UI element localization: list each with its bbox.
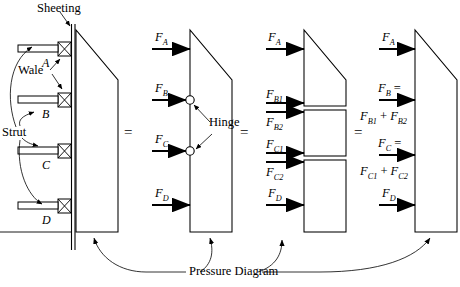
force-label-FC-4-eq: = [391, 136, 401, 150]
force-label-FB-4-line1: FB = [378, 82, 401, 98]
pressure-diagram-3-bot [304, 160, 346, 232]
force-label-FD-4: FD [382, 187, 396, 203]
pressure-diagram-3-top [304, 30, 346, 106]
force-label-FD-2: FD [155, 187, 169, 203]
force-label-FA-3-base: F [268, 30, 276, 44]
force-label-FC-2-base: F [155, 132, 163, 146]
force-label-FB-4-base: F [378, 81, 386, 95]
strut-level-label-A: A [42, 57, 49, 69]
force-label-FC-4-plus: + [377, 164, 390, 178]
equals-sign-3: = [354, 125, 362, 140]
force-label-FD-4-base: F [382, 186, 390, 200]
force-label-FC2-3: FC2 [266, 166, 283, 182]
pressure-diagram-2 [190, 30, 232, 232]
force-label-FB-2-sub: B [163, 89, 168, 98]
force-label-FD-2-base: F [155, 186, 163, 200]
force-label-FB1-3-sub: B1 [274, 95, 283, 104]
force-label-FA-3: FA [268, 31, 281, 47]
force-label-FB-4-eq: = [391, 81, 401, 95]
force-label-FD-3-base: F [268, 186, 276, 200]
force-label-FB-2-base: F [155, 81, 163, 95]
pressure-diagram-4 [415, 30, 457, 232]
force-label-FC1-4-base: F [360, 164, 368, 178]
force-label-FC1-3-base: F [266, 137, 274, 151]
force-label-FB-4-line2: FB1 + FB2 [360, 110, 407, 126]
strut-label: Strut [2, 126, 26, 139]
force-label-FC2-3-base: F [266, 165, 274, 179]
force-label-FD-3-sub: D [276, 194, 282, 203]
pressure-diagram-3-mid [304, 110, 346, 156]
force-label-FC2-4-sub: C2 [398, 172, 408, 181]
force-label-FB1-4-sub: B1 [368, 117, 377, 126]
hinge-marker-upper [186, 96, 194, 104]
force-label-FB1-4-base: F [360, 109, 368, 123]
force-label-FD-2-sub: D [163, 194, 169, 203]
wale-boxes [58, 42, 71, 213]
force-label-FB2-3: FB2 [266, 116, 283, 132]
force-label-FA-2: FA [155, 31, 168, 47]
force-label-FB1-3-base: F [266, 87, 274, 101]
force-label-FC-4-base: F [378, 136, 386, 150]
force-label-FA-2-sub: A [163, 38, 168, 47]
force-label-FB-4-plus: + [377, 109, 390, 123]
wale-leaders [50, 59, 62, 89]
force-label-FB2-3-sub: B2 [274, 123, 283, 132]
figure-root: Sheeting Wale Strut A B C D = = = FA FB … [0, 0, 460, 287]
force-label-FA-2-base: F [155, 30, 163, 44]
force-label-FC1-4-sub: C1 [368, 172, 378, 181]
equals-sign-2: = [240, 125, 248, 140]
force-label-FC-4-line2: FC1 + FC2 [360, 165, 408, 181]
force-label-FB2-4-sub: B2 [398, 117, 407, 126]
force-label-FA-4: FA [382, 31, 395, 47]
force-label-FB2-4-base: F [390, 109, 398, 123]
force-label-FC1-3: FC1 [266, 138, 283, 154]
force-label-FC-4-line1: FC = [378, 137, 401, 153]
force-label-FC1-3-sub: C1 [274, 145, 284, 154]
force-label-FC2-3-sub: C2 [274, 173, 284, 182]
equals-sign-1: = [124, 125, 132, 140]
hinge-marker-lower [186, 147, 194, 155]
force-label-FB-2: FB [155, 82, 168, 98]
pressure-diagram-1 [76, 30, 118, 232]
force-label-FB1-3: FB1 [266, 88, 283, 104]
force-label-FA-3-sub: A [276, 38, 281, 47]
sheeting-wall [72, 24, 76, 250]
force-label-FA-4-base: F [382, 30, 390, 44]
force-label-FC-2-sub: C [163, 140, 169, 149]
pressure-diagram-caption: Pressure Diagram [189, 265, 278, 278]
force-label-FB2-3-base: F [266, 115, 274, 129]
wale-label: Wale [18, 64, 43, 77]
sheeting-label: Sheeting [37, 2, 81, 15]
force-label-FD-4-sub: D [390, 194, 396, 203]
force-label-FD-3: FD [268, 187, 282, 203]
force-label-FA-4-sub: A [390, 38, 395, 47]
strut-level-label-D: D [42, 214, 51, 226]
hinge-label: Hinge [209, 116, 240, 129]
strut-level-label-C: C [42, 159, 50, 171]
force-label-FC-2: FC [155, 133, 168, 149]
strut-level-label-B: B [42, 108, 49, 120]
